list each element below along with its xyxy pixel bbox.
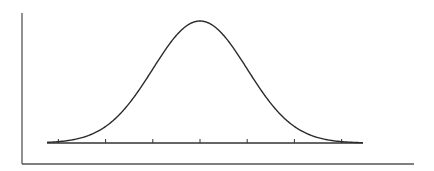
normal-curve [47, 21, 363, 143]
bell-curve-diagram [0, 0, 434, 171]
